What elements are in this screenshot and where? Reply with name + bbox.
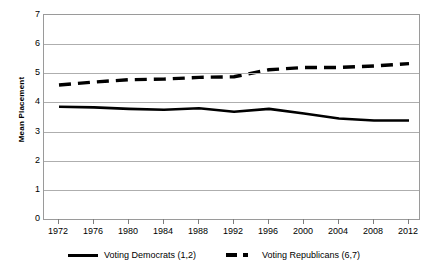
x-tick-label: 1988 <box>178 226 218 237</box>
gridline <box>44 73 419 74</box>
line-chart: Mean Placement 76543210 1972197619801984… <box>0 0 428 273</box>
y-tick-label: 2 <box>24 156 40 165</box>
x-tick-label: 2004 <box>318 226 358 237</box>
x-tick-mark <box>58 219 59 224</box>
x-tick-mark <box>373 219 374 224</box>
y-tick-label: 1 <box>24 185 40 194</box>
x-tick-label: 1980 <box>108 226 148 237</box>
x-tick-mark <box>163 219 164 224</box>
x-tick-mark <box>408 219 409 224</box>
series-line <box>59 107 409 121</box>
x-tick-mark <box>128 219 129 224</box>
y-tick-label: 0 <box>24 214 40 223</box>
x-tick-mark <box>93 219 94 224</box>
x-tick-label: 2012 <box>388 226 428 237</box>
x-tick-label: 2000 <box>283 226 323 237</box>
gridline <box>44 44 419 45</box>
y-tick-label: 6 <box>24 39 40 48</box>
gridline <box>44 190 419 191</box>
chart-legend: Voting Democrats (1,2)Voting Republicans… <box>0 250 428 260</box>
y-tick-label: 4 <box>24 97 40 106</box>
x-tick-label: 1976 <box>73 226 113 237</box>
x-tick-mark <box>268 219 269 224</box>
legend-swatch-solid <box>68 254 98 257</box>
series-canvas <box>44 15 419 219</box>
x-tick-mark <box>338 219 339 224</box>
y-tick-label: 5 <box>24 68 40 77</box>
x-tick-label: 1984 <box>143 226 183 237</box>
x-tick-mark <box>303 219 304 224</box>
legend-entry[interactable]: Voting Democrats (1,2) <box>68 250 196 260</box>
legend-label: Voting Republicans (6,7) <box>262 250 360 260</box>
x-tick-label: 1992 <box>213 226 253 237</box>
x-tick-label: 1972 <box>38 226 78 237</box>
gridline <box>44 132 419 133</box>
legend-label: Voting Democrats (1,2) <box>104 250 196 260</box>
y-tick-label: 7 <box>24 10 40 19</box>
x-tick-label: 2008 <box>353 226 393 237</box>
series-line <box>59 64 409 85</box>
gridline <box>44 161 419 162</box>
x-tick-mark <box>198 219 199 224</box>
y-tick-label: 3 <box>24 127 40 136</box>
legend-entry[interactable]: Voting Republicans (6,7) <box>226 250 360 260</box>
plot-area <box>43 14 420 220</box>
x-tick-label: 1996 <box>248 226 288 237</box>
x-tick-mark <box>233 219 234 224</box>
y-axis-tick-labels: 76543210 <box>24 0 40 232</box>
legend-swatch-dashed <box>226 253 256 257</box>
gridline <box>44 102 419 103</box>
